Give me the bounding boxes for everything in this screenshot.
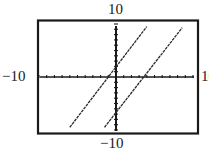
axes (39, 24, 194, 131)
graph-window (0, 0, 209, 153)
